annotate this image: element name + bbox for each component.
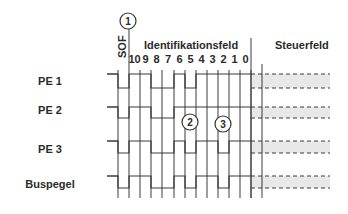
bit-label: 7 [165,53,171,65]
marker-2: 2 [182,114,198,130]
bit-label: 0 [242,53,248,65]
id-field-label: Identifikationsfeld [144,39,238,51]
bit-label: 10 [128,53,140,65]
bit-number-labels: 109876543210 [128,53,248,65]
bit-label: 6 [176,53,182,65]
bit-label: 5 [187,53,193,65]
bit-label: 3 [209,53,215,65]
row-label-buspegel: Buspegel [25,178,75,190]
bit-label: 4 [198,53,205,65]
sof-marker: 1 SOF [116,13,136,58]
bit-label: 9 [142,53,148,65]
marker-2-number: 2 [187,117,193,128]
row-label-pe1: PE 1 [38,75,62,87]
bit-label: 1 [231,53,237,65]
waveform-row [107,141,251,153]
can-arbitration-diagram: 1 SOF Identifikationsfeld Steuerfeld 109… [0,0,348,214]
waveform-row [107,176,251,188]
row-label-pe3: PE 3 [38,143,62,155]
marker-3: 3 [215,116,231,132]
marker-3-number: 3 [220,119,226,130]
control-field-label: Steuerfeld [275,39,329,51]
marker-1-number: 1 [125,16,131,27]
sof-label: SOF [116,35,128,58]
bit-label: 2 [220,53,226,65]
bit-label: 8 [153,53,159,65]
control-field-shading [252,74,330,188]
row-label-pe2: PE 2 [38,104,62,116]
